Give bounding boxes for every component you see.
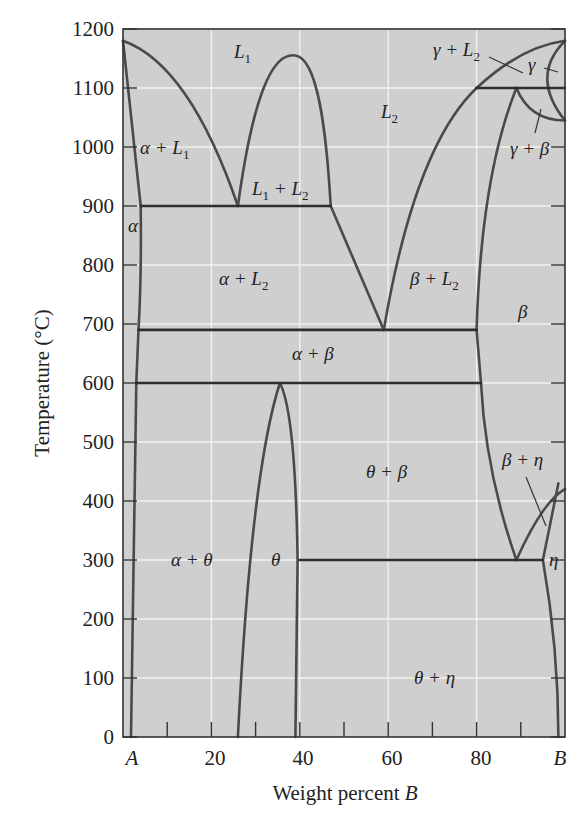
x-axis-title: Weight percent B (272, 781, 417, 805)
x-tick-A: A (124, 746, 139, 770)
x-tick-B: B (554, 746, 567, 770)
y-tick-700: 700 (83, 312, 115, 336)
y-tick-200: 200 (83, 607, 115, 631)
x-tick-80: 80 (471, 746, 492, 770)
label-gamma: γ (528, 54, 536, 75)
label-beta-eta: β + η (501, 449, 543, 470)
x-tick-20: 20 (205, 746, 226, 770)
y-tick-500: 500 (83, 430, 115, 454)
label-theta-eta: θ + η (414, 667, 455, 688)
y-tick-300: 300 (83, 548, 115, 572)
y-tick-1200: 1200 (72, 17, 114, 41)
label-alpha-beta: α + β (292, 343, 334, 364)
label-beta: β (517, 301, 528, 322)
x-tick-40: 40 (293, 746, 314, 770)
y-tick-1100: 1100 (73, 76, 114, 100)
y-tick-400: 400 (83, 489, 115, 513)
label-gamma-beta: γ + β (510, 138, 550, 159)
y-tick-0: 0 (104, 725, 115, 749)
phase-diagram: 0 100 200 300 400 500 600 700 800 900 10… (0, 0, 587, 822)
y-tick-1000: 1000 (72, 135, 114, 159)
x-axis-tick-labels: A 20 40 60 80 B (124, 746, 567, 770)
x-tick-60: 60 (382, 746, 403, 770)
label-theta: θ (271, 549, 280, 570)
y-axis-tick-labels: 0 100 200 300 400 500 600 700 800 900 10… (72, 17, 114, 749)
y-tick-800: 800 (83, 253, 115, 277)
y-tick-100: 100 (83, 666, 115, 690)
y-tick-900: 900 (83, 194, 115, 218)
label-theta-beta: θ + β (366, 461, 408, 482)
label-alpha-theta: α + θ (171, 549, 213, 570)
label-eta: η (549, 549, 558, 570)
label-alpha: α (128, 215, 139, 236)
y-axis-title: Temperature (°C) (30, 309, 54, 456)
y-tick-600: 600 (83, 371, 115, 395)
